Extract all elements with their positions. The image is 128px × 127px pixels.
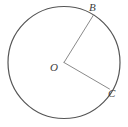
radius-ob-line [64, 15, 94, 63]
radius-oc-line [64, 63, 110, 90]
center-label-o: O [50, 62, 58, 73]
geometry-figure: B O C [0, 0, 128, 127]
point-label-c: C [108, 88, 115, 99]
point-label-b: B [89, 2, 96, 13]
geometry-canvas [0, 0, 128, 127]
